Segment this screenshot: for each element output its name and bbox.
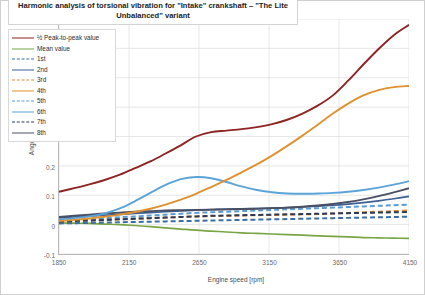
legend-swatch-icon — [12, 45, 34, 53]
legend-swatch-icon — [12, 97, 34, 105]
legend-item-label: ½ Peak-to-peak value — [37, 35, 99, 41]
legend-item-label: 7th — [37, 119, 46, 125]
legend-item-label: 4th — [37, 88, 46, 94]
x-tick-label: 4150 — [403, 259, 417, 266]
legend-item[interactable]: 6th — [12, 107, 111, 118]
legend-swatch-icon — [12, 76, 34, 84]
legend-swatch-icon — [12, 66, 34, 74]
legend-item-label: 3rd — [37, 77, 46, 83]
legend-item[interactable]: 7th — [12, 117, 111, 128]
y-tick-label: 0.2 — [46, 163, 55, 170]
legend-swatch-icon — [12, 87, 34, 95]
legend-item-label: 5th — [37, 98, 46, 104]
chart-legend: ½ Peak-to-peak valueMean value1st2nd3rd4… — [8, 29, 116, 142]
y-tick-label: 0.1 — [46, 193, 55, 200]
x-tick-label: 3150 — [262, 259, 276, 266]
legend-item[interactable]: 2nd — [12, 65, 111, 76]
x-tick-label: 1850 — [52, 259, 66, 266]
legend-item[interactable]: Mean value — [12, 44, 111, 55]
legend-item-label: 6th — [37, 109, 46, 115]
legend-item[interactable]: ½ Peak-to-peak value — [12, 33, 111, 44]
chart-figure: Angular displacement [deg] Engine speed … — [0, 0, 425, 295]
legend-item-label: 2nd — [37, 67, 48, 73]
legend-item[interactable]: 1st — [12, 54, 111, 65]
x-tick-label: 2650 — [192, 259, 206, 266]
legend-item[interactable]: 3rd — [12, 75, 111, 86]
legend-swatch-icon — [12, 129, 34, 137]
legend-item-label: Mean value — [37, 46, 70, 52]
legend-item-label: 8th — [37, 130, 46, 136]
x-tick-label: 2150 — [122, 259, 136, 266]
y-tick-label: 0 — [51, 222, 55, 229]
legend-item[interactable]: 4th — [12, 86, 111, 97]
legend-item[interactable]: 8th — [12, 128, 111, 139]
x-tick-label: 3650 — [333, 259, 347, 266]
y-tick-label: -0.1 — [44, 252, 55, 259]
series-line — [59, 223, 409, 239]
chart-title: Harmonic analysis of torsional vibration… — [8, 0, 298, 25]
legend-swatch-icon — [12, 108, 34, 116]
legend-swatch-icon — [12, 118, 34, 126]
legend-swatch-icon — [12, 34, 34, 42]
legend-item[interactable]: 5th — [12, 96, 111, 107]
x-axis-title: Engine speed [rpm] — [56, 276, 416, 283]
legend-item-label: 1st — [37, 56, 46, 62]
legend-swatch-icon — [12, 55, 34, 63]
